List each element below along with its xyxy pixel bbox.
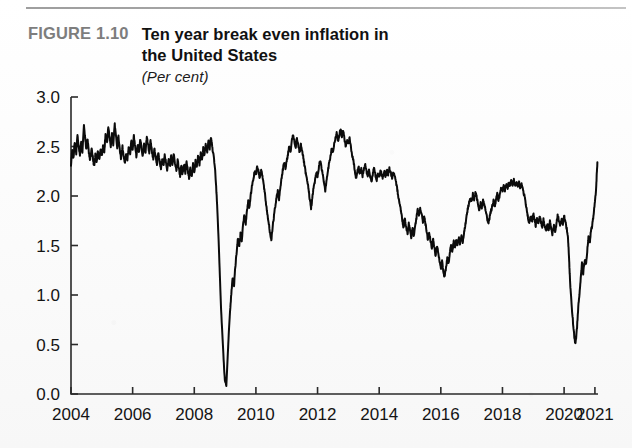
y-tick-label: 0.0 bbox=[36, 385, 60, 404]
inflation-series-line bbox=[71, 123, 597, 386]
y-tick-label: 2.0 bbox=[36, 187, 60, 206]
y-tick-label: 2.5 bbox=[36, 138, 60, 157]
x-tick-label: 2016 bbox=[422, 405, 460, 424]
line-chart: 0.00.51.01.52.02.53.0 200420062008201020… bbox=[0, 0, 632, 448]
x-tick-label: 2012 bbox=[299, 405, 337, 424]
x-tick-label: 2004 bbox=[52, 405, 90, 424]
y-tick-label: 1.0 bbox=[36, 286, 60, 305]
y-tick-label: 0.5 bbox=[36, 336, 60, 355]
chart-plot-area: 0.00.51.01.52.02.53.0 200420062008201020… bbox=[0, 0, 632, 448]
x-axis-ticks: 2004200620082010201220142016201820202021 bbox=[52, 387, 614, 424]
x-tick-label: 2018 bbox=[484, 405, 522, 424]
x-tick-label: 2006 bbox=[114, 405, 152, 424]
x-tick-label: 2008 bbox=[175, 405, 213, 424]
y-tick-label: 3.0 bbox=[36, 88, 60, 107]
x-tick-label: 2014 bbox=[360, 405, 398, 424]
y-tick-label: 1.5 bbox=[36, 237, 60, 256]
x-tick-label: 2010 bbox=[237, 405, 275, 424]
x-tick-label: 2021 bbox=[576, 405, 614, 424]
